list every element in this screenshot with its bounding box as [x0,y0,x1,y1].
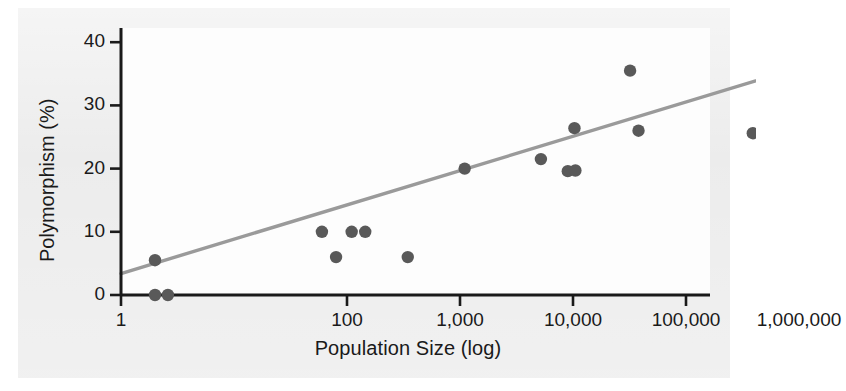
y-tick-label: 30 [49,93,105,115]
trendline [121,57,756,273]
y-tick-label: 40 [49,30,105,52]
y-tick-label: 0 [49,283,105,305]
x-tick-label: 1 [46,309,196,331]
x-axis-title: Population Size (log) [255,337,502,360]
x-tick-label: 1,000,000 [724,309,846,331]
data-points [149,64,756,301]
x-axis-title-wrap: Population Size (log) [0,337,756,360]
y-tick-label: 10 [49,220,105,242]
y-tick-label: 20 [49,157,105,179]
axes [110,28,756,306]
